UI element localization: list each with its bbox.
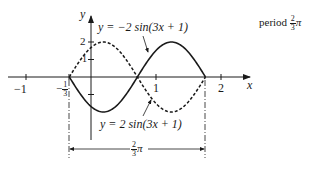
period-dimension-label: 23π <box>131 141 143 158</box>
equation-label-top: y = −2 sin(3x + 1) <box>98 20 188 35</box>
period-annotation: period 23π <box>259 15 301 32</box>
pointer-bottom <box>143 100 151 116</box>
x-tick-label-2: 2 <box>218 81 224 96</box>
x-tick-label-neg1: −1 <box>14 82 27 97</box>
y-axis-label: y <box>80 7 85 22</box>
x-axis-label: x <box>247 78 252 93</box>
x-tick-label-neg-third: −13 <box>56 81 68 98</box>
y-tick-label-2: 2 <box>80 35 86 47</box>
y-tick-label-1: 1 <box>82 53 87 64</box>
x-tick-label-1: 1 <box>153 81 159 96</box>
equation-label-bottom: y = 2 sin(3x + 1) <box>100 117 182 132</box>
pointer-top <box>143 36 148 52</box>
